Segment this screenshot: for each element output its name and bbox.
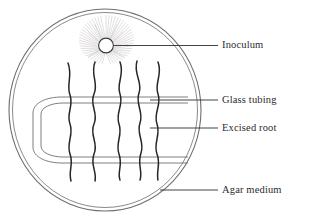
label-glass-tubing: Glass tubing [222, 94, 277, 106]
figure-canvas: Inoculum Glass tubing Excised root Agar … [0, 0, 311, 222]
inoculum-disc [99, 38, 114, 53]
excised-root [118, 62, 122, 180]
glass-tubing-inner-wall [41, 103, 188, 157]
excised-root [136, 61, 142, 180]
glass-tubing-outer-wall [33, 97, 188, 163]
label-inoculum: Inoculum [222, 39, 263, 51]
glass-tubing [33, 97, 188, 163]
leader-lines [114, 46, 218, 191]
label-excised-root: Excised root [222, 122, 277, 134]
excised-root [156, 62, 160, 180]
label-agar-medium: Agar medium [222, 184, 282, 196]
